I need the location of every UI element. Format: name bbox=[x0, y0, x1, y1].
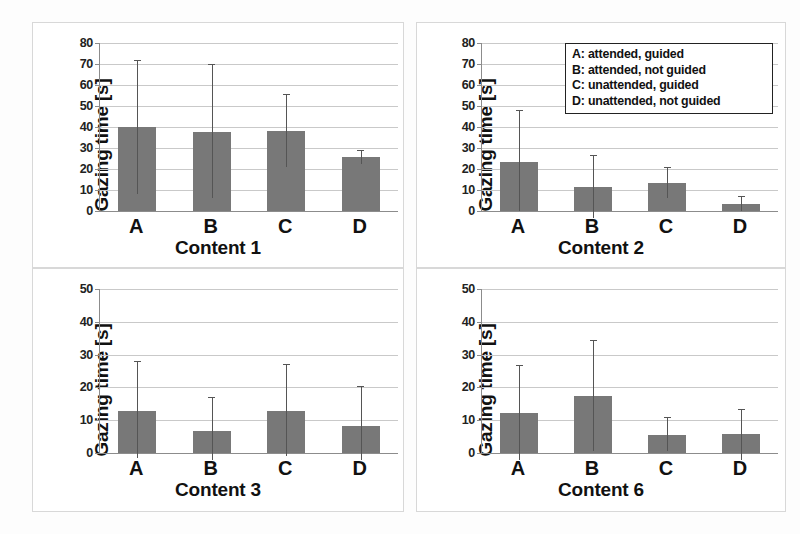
y-tick-mark bbox=[477, 148, 482, 149]
error-bar-cap bbox=[208, 397, 215, 398]
gridline bbox=[482, 289, 778, 290]
plot-area-content-3: 01020304050ABCDContent 3 bbox=[33, 269, 403, 511]
y-tick-mark bbox=[477, 85, 482, 86]
y-tick-mark bbox=[95, 64, 100, 65]
y-tick-mark bbox=[95, 190, 100, 191]
x-tick-label: B bbox=[585, 215, 599, 238]
error-bar bbox=[593, 340, 594, 452]
y-tick-mark bbox=[95, 453, 100, 454]
error-bar-cap bbox=[208, 64, 215, 65]
legend-entry-b: B: attended, not guided bbox=[572, 63, 766, 79]
y-tick-label: 40 bbox=[59, 315, 93, 329]
y-tick-mark bbox=[477, 322, 482, 323]
gridline bbox=[100, 322, 398, 323]
y-tick-label: 10 bbox=[59, 183, 93, 197]
x-tick-label: D bbox=[353, 215, 367, 238]
y-tick-mark bbox=[95, 387, 100, 388]
y-tick-label: 20 bbox=[59, 162, 93, 176]
gridline bbox=[100, 64, 398, 65]
y-tick-labels: 01020304050 bbox=[441, 269, 475, 463]
gridline bbox=[482, 148, 778, 149]
y-tick-label: 0 bbox=[59, 204, 93, 218]
gridline bbox=[482, 355, 778, 356]
y-tick-label: 10 bbox=[441, 413, 475, 427]
y-tick-mark bbox=[477, 190, 482, 191]
chart-panel-content-3: Gazing time [s] 01020304050ABCDContent 3 bbox=[32, 268, 404, 512]
y-tick-mark bbox=[477, 64, 482, 65]
y-tick-mark bbox=[95, 148, 100, 149]
error-bar-cap bbox=[738, 196, 745, 197]
y-tick-label: 60 bbox=[441, 78, 475, 92]
y-tick-mark bbox=[477, 127, 482, 128]
gridline bbox=[482, 127, 778, 128]
y-tick-label: 20 bbox=[441, 162, 475, 176]
x-axis-title: Content 2 bbox=[417, 237, 785, 259]
y-tick-label: 30 bbox=[59, 348, 93, 362]
error-bar bbox=[519, 110, 520, 211]
error-bar-cap bbox=[283, 94, 290, 95]
y-tick-mark bbox=[477, 420, 482, 421]
error-bar bbox=[667, 417, 668, 451]
legend-entry-c: C: unattended, guided bbox=[572, 78, 766, 94]
plot-area-content-6: 01020304050ABCDContent 6 bbox=[417, 269, 785, 511]
x-tick-label: C bbox=[278, 457, 292, 480]
x-tick-label: B bbox=[585, 457, 599, 480]
error-bar bbox=[137, 361, 138, 458]
x-tick-label: A bbox=[511, 215, 525, 238]
plot-area-content-1: 01020304050607080ABCDContent 1 bbox=[33, 23, 403, 267]
error-bar bbox=[212, 397, 213, 460]
y-tick-mark bbox=[95, 211, 100, 212]
error-bar-cap bbox=[516, 110, 523, 111]
error-bar-cap bbox=[590, 155, 597, 156]
y-tick-label: 70 bbox=[59, 57, 93, 71]
x-tick-label: B bbox=[204, 457, 218, 480]
x-tick-label: D bbox=[353, 457, 367, 480]
gridline bbox=[100, 355, 398, 356]
y-tick-mark bbox=[95, 85, 100, 86]
axes bbox=[99, 289, 398, 454]
x-tick-label: B bbox=[204, 215, 218, 238]
y-tick-label: 70 bbox=[441, 57, 475, 71]
chart-panel-content-1: Gazing time [s] 01020304050607080ABCDCon… bbox=[32, 22, 404, 268]
x-tick-label: C bbox=[278, 215, 292, 238]
x-tick-label: A bbox=[129, 457, 143, 480]
y-tick-mark bbox=[477, 387, 482, 388]
error-bar bbox=[741, 409, 742, 460]
x-axis-title: Content 1 bbox=[33, 237, 403, 259]
figure-canvas: Gazing time [s] 01020304050607080ABCDCon… bbox=[0, 0, 800, 534]
gridline bbox=[100, 289, 398, 290]
x-tick-label: C bbox=[659, 457, 673, 480]
x-tick-label: A bbox=[511, 457, 525, 480]
y-tick-mark bbox=[95, 420, 100, 421]
y-tick-label: 40 bbox=[441, 120, 475, 134]
error-bar bbox=[286, 94, 287, 166]
legend-entry-a: A: attended, guided bbox=[572, 47, 766, 63]
bar bbox=[342, 157, 380, 211]
error-bar bbox=[519, 365, 520, 459]
y-tick-mark bbox=[95, 322, 100, 323]
y-tick-label: 0 bbox=[441, 204, 475, 218]
y-tick-label: 0 bbox=[441, 446, 475, 460]
gridline bbox=[100, 387, 398, 388]
y-tick-labels: 01020304050607080 bbox=[59, 23, 93, 221]
y-tick-labels: 01020304050607080 bbox=[441, 23, 475, 221]
y-tick-label: 40 bbox=[59, 120, 93, 134]
y-tick-label: 0 bbox=[59, 446, 93, 460]
y-tick-mark bbox=[477, 289, 482, 290]
y-tick-label: 20 bbox=[441, 380, 475, 394]
error-bar-cap bbox=[516, 365, 523, 366]
axes bbox=[481, 289, 778, 454]
error-bar-cap bbox=[357, 150, 364, 151]
error-bar bbox=[212, 64, 213, 198]
y-tick-label: 30 bbox=[441, 348, 475, 362]
x-axis-title: Content 6 bbox=[417, 479, 785, 501]
error-bar bbox=[286, 364, 287, 456]
error-bar bbox=[667, 167, 668, 199]
error-bar-cap bbox=[738, 409, 745, 410]
x-tick-label: A bbox=[129, 215, 143, 238]
y-tick-mark bbox=[477, 106, 482, 107]
error-bar-cap bbox=[134, 60, 141, 61]
y-tick-mark bbox=[95, 169, 100, 170]
y-tick-mark bbox=[477, 169, 482, 170]
y-tick-labels: 01020304050 bbox=[59, 269, 93, 463]
